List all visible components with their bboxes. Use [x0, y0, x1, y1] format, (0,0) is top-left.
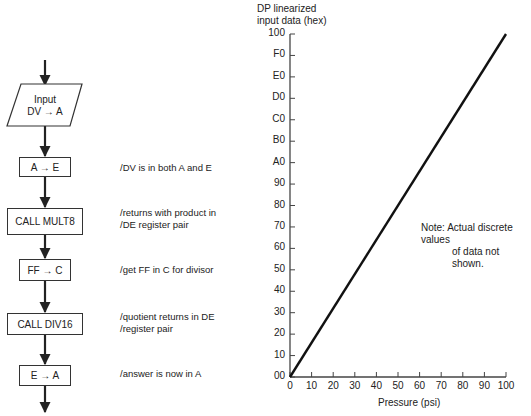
y-tick-label: 10 [255, 349, 285, 360]
x-tick-label: 30 [343, 380, 367, 391]
annotation-line2: of data not shown. [421, 246, 531, 270]
x-tick-label: 100 [494, 380, 518, 391]
data-series-line [290, 34, 506, 377]
y-tick-label: F0 [255, 48, 285, 59]
y-tick-label: 30 [255, 306, 285, 317]
x-tick-label: 10 [300, 380, 324, 391]
y-tick-label: C0 [255, 113, 285, 124]
x-tick-label: 60 [408, 380, 432, 391]
x-tick-label: 80 [451, 380, 475, 391]
x-tick-label: 0 [278, 380, 302, 391]
y-tick-label: 40 [255, 284, 285, 295]
x-tick-label: 70 [429, 380, 453, 391]
y-tick-label: 80 [255, 199, 285, 210]
y-tick-label: D0 [255, 91, 285, 102]
y-tick-label: 20 [255, 327, 285, 338]
y-tick-label: 60 [255, 241, 285, 252]
x-tick-label: 90 [472, 380, 496, 391]
x-tick-label: 40 [364, 380, 388, 391]
chart-annotation: Note: Actual discrete values of data not… [421, 222, 531, 270]
x-tick-label: 50 [386, 380, 410, 391]
x-tick-label: 20 [321, 380, 345, 391]
y-tick-label: B0 [255, 134, 285, 145]
y-tick-label: 90 [255, 177, 285, 188]
y-tick-label: 50 [255, 263, 285, 274]
y-tick-label: 70 [255, 220, 285, 231]
y-tick-label: E0 [255, 70, 285, 81]
y-tick-label: A0 [255, 156, 285, 167]
annotation-line1: Note: Actual discrete values [421, 222, 531, 246]
y-tick-label: 100 [255, 27, 285, 38]
x-axis-title: Pressure (psi) [378, 397, 440, 408]
